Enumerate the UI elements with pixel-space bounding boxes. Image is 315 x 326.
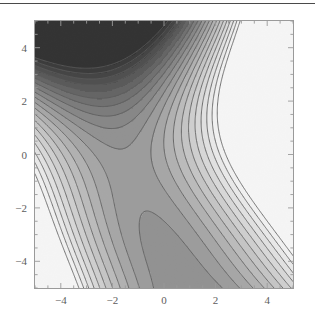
y-tick-label: 2 xyxy=(22,95,28,107)
x-tick-label: 0 xyxy=(161,294,167,306)
y-tick-label: 0 xyxy=(22,149,28,161)
y-tick-label: 4 xyxy=(22,42,28,54)
plot-area xyxy=(35,21,293,288)
figure-root: −4−2024 −4−2024 xyxy=(0,0,315,326)
texture-noise-layer xyxy=(35,21,293,288)
x-tick-label: −4 xyxy=(55,294,67,306)
x-tick-label: 4 xyxy=(264,294,270,306)
x-tick-label: −2 xyxy=(107,294,119,306)
y-tick-label: −4 xyxy=(15,255,27,267)
y-axis-tick-labels: −4−2024 xyxy=(15,42,27,268)
contour-plot: −4−2024 −4−2024 xyxy=(0,0,315,326)
x-axis-tick-labels: −4−2024 xyxy=(55,294,271,306)
y-tick-label: −2 xyxy=(15,202,27,214)
x-tick-label: 2 xyxy=(213,294,219,306)
